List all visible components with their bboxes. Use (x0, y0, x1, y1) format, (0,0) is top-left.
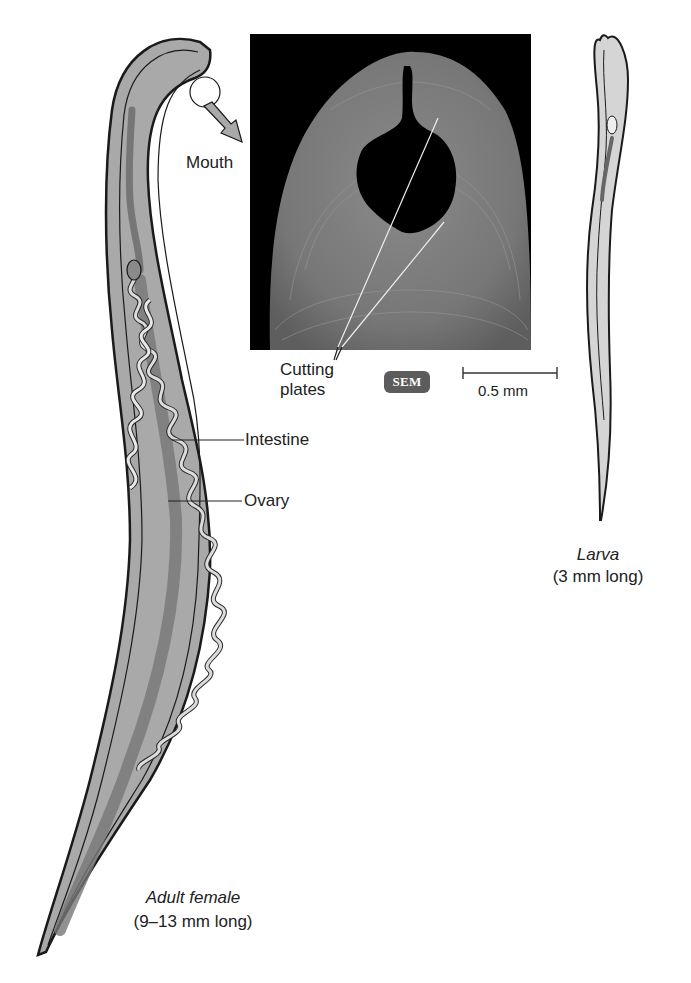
cutting-plates-label-line1: Cutting (280, 360, 334, 380)
larva-worm (587, 35, 628, 520)
sem-micrograph (250, 34, 531, 350)
adult-female-size: (9–13 mm long) (120, 912, 266, 932)
arrow-to-micrograph (204, 102, 242, 142)
cutting-plates-label-line2: plates (280, 380, 325, 400)
adult-female-title: Adult female (128, 888, 258, 908)
larva-size: (3 mm long) (538, 567, 658, 587)
illustration-canvas (0, 0, 691, 983)
hookworm-figure: Mouth Cutting plates SEM 0.5 mm Intestin… (0, 0, 691, 983)
mouth-label: Mouth (186, 153, 233, 173)
sem-badge: SEM (384, 371, 430, 393)
scale-bar (463, 367, 557, 379)
adult-female-worm (38, 39, 242, 955)
ovary-label: Ovary (244, 491, 289, 511)
larva-title: Larva (548, 545, 648, 565)
intestine-label: Intestine (245, 430, 309, 450)
scale-bar-label: 0.5 mm (478, 381, 528, 401)
